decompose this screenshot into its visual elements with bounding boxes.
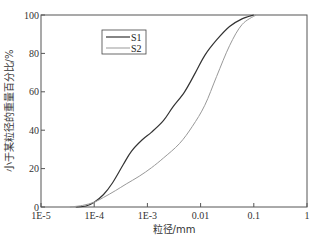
x-tick-label: 1: [305, 210, 310, 221]
x-tick-label: 1E-4: [84, 210, 103, 221]
y-tick-label: 20: [29, 163, 39, 174]
series-layer: [70, 15, 256, 207]
x-tick-label: 0.01: [192, 210, 210, 221]
y-tick-label: 0: [34, 202, 39, 213]
x-axis: 1E-51E-41E-30.010.11: [31, 203, 309, 221]
y-tick-label: 60: [29, 86, 39, 97]
x-tick-label: 1E-3: [138, 210, 157, 221]
y-axis-label: 小于某粒径的重量百分比/%: [3, 50, 15, 173]
series-line-s2: [70, 15, 256, 207]
x-axis-label: 粒径/mm: [153, 223, 196, 235]
x-tick-label: 0.1: [248, 210, 261, 221]
plot-frame: [41, 15, 307, 207]
y-tick-label: 100: [24, 10, 39, 21]
legend-label-s2: S2: [131, 43, 142, 54]
y-tick-label: 80: [29, 48, 39, 59]
y-axis: 020406080100: [24, 10, 45, 213]
legend: S1 S2: [102, 30, 146, 54]
particle-size-chart: 1E-51E-41E-30.010.11 020406080100 S1 S2 …: [0, 0, 317, 241]
legend-label-s1: S1: [131, 32, 142, 43]
y-tick-label: 40: [29, 125, 39, 136]
